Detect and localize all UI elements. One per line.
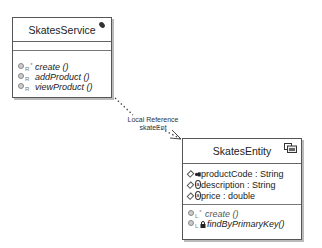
operation-row[interactable]: L* create () xyxy=(188,209,301,219)
class-header: SkatesEntity xyxy=(183,139,301,164)
class-header: SkatesService xyxy=(13,18,111,42)
relationship-label: Local Reference skateEnt xyxy=(118,116,188,132)
attribute-icon: a xyxy=(187,180,201,189)
remote-method-icon: R xyxy=(18,72,35,82)
remote-method-icon: R xyxy=(18,82,35,92)
class-name: SkatesService xyxy=(28,24,95,36)
operations-section: R* create () R addProduct () R viewProdu… xyxy=(13,51,111,92)
operation-name: viewProduct () xyxy=(35,82,93,92)
attribute-text: description : String xyxy=(201,180,276,190)
attribute-row[interactable]: a price : double xyxy=(187,190,301,201)
local-method-icon: L xyxy=(188,219,200,229)
class-name: SkatesEntity xyxy=(213,145,271,157)
operation-name: create () xyxy=(35,62,69,72)
class-skates-entity[interactable]: SkatesEntity productCode : String a desc… xyxy=(182,138,302,240)
operation-name: addProduct () xyxy=(35,72,90,82)
operation-row[interactable]: L findByPrimaryKey() xyxy=(188,219,301,229)
attribute-icon: a xyxy=(187,191,201,200)
class-skates-service[interactable]: SkatesService R* create () R addProduct … xyxy=(12,17,112,98)
remote-method-icon: R* xyxy=(18,62,35,72)
local-method-icon: L* xyxy=(188,209,205,219)
operation-row[interactable]: R addProduct () xyxy=(18,72,111,82)
attribute-row[interactable]: a description : String xyxy=(187,179,301,190)
operation-row[interactable]: R* create () xyxy=(18,62,111,72)
operations-section: L* create () L findByPrimaryKey() xyxy=(183,205,301,229)
attribute-text: price : double xyxy=(201,191,255,201)
entity-bean-icon xyxy=(284,143,297,153)
attributes-section xyxy=(13,42,111,51)
attributes-section: productCode : String a description : Str… xyxy=(183,164,301,205)
operation-row[interactable]: R viewProduct () xyxy=(18,82,111,92)
pencil-note-icon xyxy=(98,21,106,29)
relationship-type: Local Reference xyxy=(118,116,188,124)
operation-name: findByPrimaryKey() xyxy=(207,219,285,229)
lock-icon xyxy=(200,221,206,228)
relationship-role: skateEnt xyxy=(118,124,188,132)
operation-name: create () xyxy=(205,209,239,219)
primary-key-icon xyxy=(187,171,201,177)
attribute-text: productCode : String xyxy=(201,169,284,179)
attribute-row[interactable]: productCode : String xyxy=(187,168,301,179)
